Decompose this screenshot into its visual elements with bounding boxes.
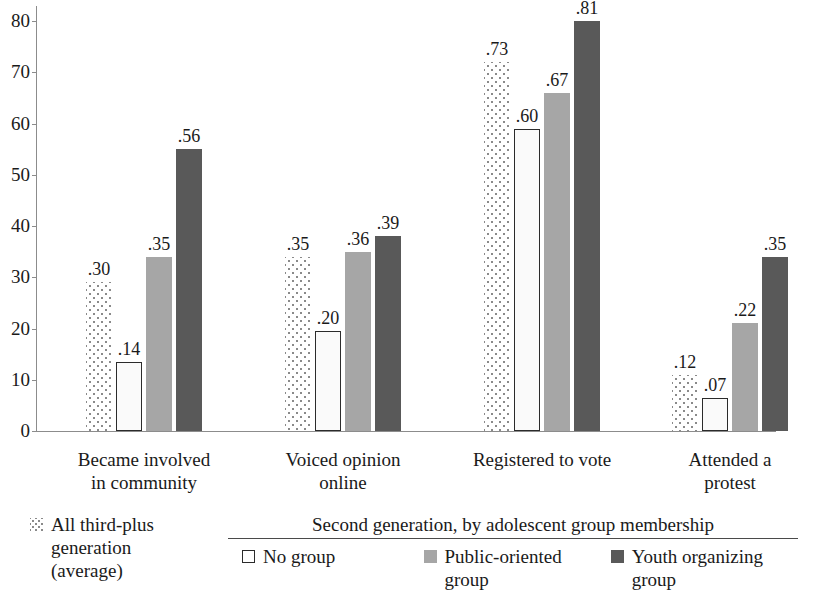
category-label-line: Became involved	[78, 449, 210, 470]
bar-slot: .73	[484, 6, 510, 431]
y-axis-tick-mark	[32, 175, 37, 176]
legend-label-line: No group	[263, 546, 335, 567]
y-axis-line	[36, 6, 37, 431]
y-axis-tick-label: 0	[0, 421, 30, 440]
x-axis-line	[36, 431, 776, 432]
dark-gray-swatch-icon	[611, 550, 624, 563]
bar-slot: .30	[86, 6, 112, 431]
bar	[514, 129, 540, 431]
bar-slot: .22	[732, 6, 758, 431]
y-axis-tick-label: 40	[0, 216, 30, 235]
legend-item-label: No group	[263, 545, 335, 568]
bar-slot: .56	[176, 6, 202, 431]
y-axis-tick-label: 60	[0, 114, 30, 133]
bar-value-label: .39	[365, 214, 411, 232]
y-axis-tick-mark	[32, 72, 37, 73]
y-axis-tick-label: 10	[0, 370, 30, 389]
bar-slot: .20	[315, 6, 341, 431]
y-axis-tick-label: 50	[0, 165, 30, 184]
bar-group: .73.60.67.81	[484, 6, 600, 431]
bar-value-label: .81	[564, 0, 610, 17]
legend-item: Public-orientedgroup	[424, 545, 611, 591]
y-axis-tick-label: 70	[0, 62, 30, 81]
open-swatch-icon	[242, 550, 255, 563]
bar-slot: .60	[514, 6, 540, 431]
bar-value-label: .35	[752, 235, 798, 253]
legend-item: Youth organizinggroup	[611, 545, 798, 591]
bar	[176, 149, 202, 431]
bar	[116, 362, 142, 431]
bar	[345, 252, 371, 431]
legend-label-line: Youth organizing	[632, 546, 763, 567]
y-axis-tick-mark	[32, 329, 37, 330]
category-label-line: Attended a	[689, 449, 772, 470]
legend-item-label: Public-orientedgroup	[445, 545, 562, 591]
x-axis-category-label: Registered to vote	[439, 448, 645, 471]
bar	[762, 257, 788, 431]
legend-group-title: Second generation, by adolescent group m…	[228, 513, 798, 536]
y-axis-tick-mark	[32, 21, 37, 22]
bar-slot: .67	[544, 6, 570, 431]
bar-slot: .81	[574, 6, 600, 431]
mid-gray-swatch-icon	[424, 550, 437, 563]
legend-standalone-label: All third-plus generation (average)	[51, 513, 154, 582]
x-axis-category-label: Attended aprotest	[627, 448, 816, 494]
bar	[375, 236, 401, 431]
bar-slot: .12	[672, 6, 698, 431]
y-axis-tick-label: 20	[0, 319, 30, 338]
bar	[574, 21, 600, 431]
y-axis-tick-label: 30	[0, 267, 30, 286]
bar	[315, 331, 341, 431]
bar-slot: .35	[762, 6, 788, 431]
bar-chart: 01020304050607080 .30.14.35.56.35.20.36.…	[0, 0, 816, 445]
y-axis-tick-mark	[32, 431, 37, 432]
bar-slot: .35	[146, 6, 172, 431]
bar-slot: .14	[116, 6, 142, 431]
legend-item-row: No groupPublic-orientedgroupYouth organi…	[228, 545, 798, 591]
category-label-line: protest	[704, 472, 756, 493]
legend-standalone-entry: All third-plus generation (average)	[30, 513, 220, 582]
y-axis-tick-mark	[32, 380, 37, 381]
bar	[732, 323, 758, 431]
bar-group: .35.20.36.39	[285, 6, 401, 431]
y-axis-tick-mark	[32, 277, 37, 278]
y-axis-tick-mark	[32, 226, 37, 227]
x-axis-category-label: Voiced opiniononline	[240, 448, 446, 494]
bar	[544, 93, 570, 431]
legend-label-line: Public-oriented	[445, 546, 562, 567]
chart-legend: All third-plus generation (average) Seco…	[0, 505, 816, 603]
y-axis-tick-label: 80	[0, 11, 30, 30]
bar-slot: .39	[375, 6, 401, 431]
bar-group: .30.14.35.56	[86, 6, 202, 431]
category-label-line: Registered to vote	[473, 449, 611, 470]
bar	[146, 257, 172, 431]
x-axis-category-label: Became involvedin community	[41, 448, 247, 494]
bar-slot: .35	[285, 6, 311, 431]
category-label-line: in community	[91, 472, 197, 493]
legend-item: No group	[242, 545, 424, 591]
bar	[285, 257, 311, 431]
bar-group: .12.07.22.35	[672, 6, 788, 431]
legend-divider	[228, 538, 798, 539]
legend-label-line: group	[445, 569, 489, 590]
legend-grouped-entries: Second generation, by adolescent group m…	[228, 513, 798, 591]
legend-label-line: group	[632, 569, 676, 590]
category-label-line: Voiced opinion	[285, 449, 400, 470]
y-axis-tick-mark	[32, 124, 37, 125]
legend-item-label: Youth organizinggroup	[632, 545, 763, 591]
bar-value-label: .56	[166, 127, 212, 145]
dotted-swatch-icon	[30, 518, 43, 531]
bar-slot: .07	[702, 6, 728, 431]
bar	[702, 398, 728, 431]
category-label-line: online	[319, 472, 367, 493]
